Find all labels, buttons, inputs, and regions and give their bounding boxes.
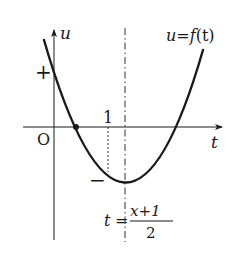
symmetry-denominator: 2 (146, 224, 156, 242)
function-graph: u u=f(t) + 1 O t − t = x+1 2 (0, 0, 245, 253)
parabola-curve (44, 40, 203, 183)
origin-label: O (37, 130, 50, 149)
symmetry-eq: = (115, 211, 128, 230)
curve-label: u=f(t) (166, 26, 215, 45)
symmetry-numerator: x+1 (130, 202, 161, 220)
negative-sign: − (89, 168, 106, 192)
t-axis-label: t (211, 132, 218, 152)
symmetry-lhs: t (104, 211, 111, 230)
u-axis-label: u (60, 23, 71, 43)
curve-label-lhs: u (166, 26, 176, 45)
symmetry-numerator-text: x+1 (130, 202, 161, 220)
root-point (73, 124, 79, 130)
curve-label-eq: = (176, 26, 189, 45)
positive-sign: + (35, 60, 52, 84)
curve-label-arg: (t) (196, 26, 215, 45)
tick-label-one: 1 (103, 108, 113, 127)
